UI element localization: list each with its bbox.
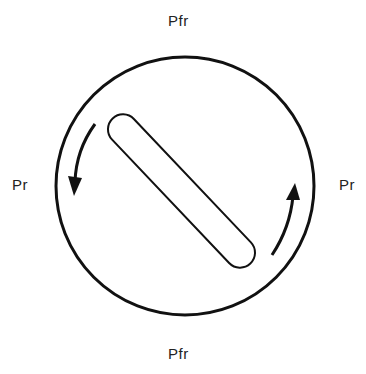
label-right: Pr [339,176,355,193]
outer-circle [56,57,314,315]
rotation-diagram [0,0,366,374]
right-arrow-icon [272,183,300,255]
label-top: Pfr [168,12,189,29]
rod [102,108,261,274]
label-left: Pr [12,176,28,193]
left-arrow-icon [68,124,95,196]
label-bottom: Pfr [168,345,189,362]
